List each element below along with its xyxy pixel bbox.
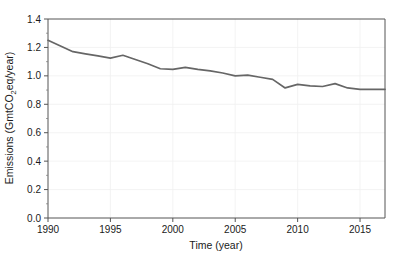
y-axis-ticks xyxy=(44,19,48,218)
y-axis-title: Emissions (GmtCO2eq/year) xyxy=(3,52,18,185)
emissions-line-chart: 0.00.20.40.60.81.01.21.4 199019952000200… xyxy=(0,0,394,256)
x-tick-label: 2005 xyxy=(224,224,247,235)
x-tick-label: 2000 xyxy=(162,224,185,235)
y-tick-label: 1.0 xyxy=(27,70,41,81)
y-tick-label: 1.2 xyxy=(27,42,41,53)
gridlines xyxy=(48,19,385,218)
y-tick-label: 0.2 xyxy=(27,184,41,195)
chart-figure: 0.00.20.40.60.81.01.21.4 199019952000200… xyxy=(0,0,394,256)
x-axis-tick-labels: 199019952000200520102015 xyxy=(37,224,372,235)
y-tick-label: 1.4 xyxy=(27,14,41,25)
x-tick-label: 1995 xyxy=(99,224,122,235)
x-tick-label: 2015 xyxy=(349,224,372,235)
y-tick-label: 0.6 xyxy=(27,127,41,138)
x-axis-title: Time (year) xyxy=(189,239,242,251)
y-tick-label: 0.8 xyxy=(27,99,41,110)
plot-frame xyxy=(48,19,385,218)
y-axis-tick-labels: 0.00.20.40.60.81.01.21.4 xyxy=(27,14,41,224)
x-tick-label: 2010 xyxy=(287,224,310,235)
x-tick-label: 1990 xyxy=(37,224,60,235)
y-tick-label: 0.0 xyxy=(27,213,41,224)
x-axis-ticks xyxy=(48,218,360,222)
y-tick-label: 0.4 xyxy=(27,156,41,167)
